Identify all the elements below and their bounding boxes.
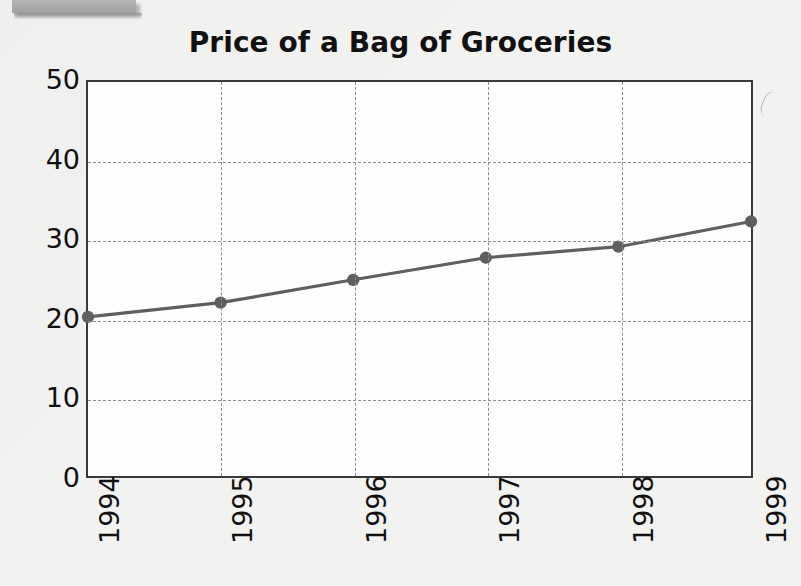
x-axis-tick-labels: 199419951996199719981999 (0, 0, 801, 586)
x-tick-label: 1997 (496, 475, 523, 544)
scanned-chart-page: Price of a Bag of Groceries 01020304050 … (0, 0, 801, 586)
x-tick-label: 1998 (630, 475, 657, 544)
x-tick-label: 1999 (763, 475, 790, 544)
x-tick-label: 1996 (363, 475, 390, 544)
x-tick-label: 1995 (229, 475, 256, 544)
x-tick-label: 1994 (96, 475, 123, 544)
